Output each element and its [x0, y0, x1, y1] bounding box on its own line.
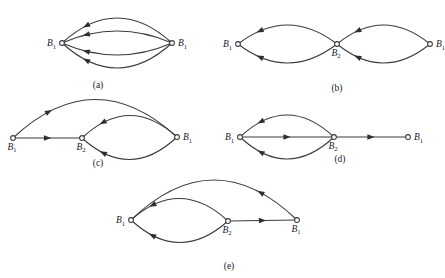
- edge-c-loop-bottom: [82, 137, 177, 160]
- arrowhead-c-loop-bottom: [100, 151, 108, 157]
- node-b-mid[interactable]: [335, 42, 340, 47]
- node-label-e-left: B1: [116, 215, 125, 226]
- node-label-subscript: 1: [420, 137, 423, 144]
- node-e-right[interactable]: [295, 218, 300, 223]
- node-d-right[interactable]: [406, 135, 411, 140]
- panel-caption-b: (b): [331, 83, 342, 94]
- node-d-left[interactable]: [238, 135, 243, 140]
- node-a-left[interactable]: [60, 41, 65, 46]
- node-b-right[interactable]: [428, 42, 433, 47]
- node-c-right[interactable]: [175, 135, 180, 140]
- node-label-c-right: B1: [183, 132, 192, 143]
- arrowhead-b-left-loop-top: [256, 27, 264, 32]
- node-label-c-mid: B2: [76, 142, 85, 153]
- edge-b-right-loop-bottom: [337, 44, 430, 63]
- arrowhead-b-right-loop-top: [354, 27, 362, 32]
- node-label-d-mid: B2: [328, 141, 337, 152]
- panel-caption-c: (c): [93, 158, 104, 169]
- node-label-subscript: 1: [53, 43, 56, 50]
- node-label-subscript: 2: [82, 146, 85, 153]
- edge-d-loop-top: [240, 115, 334, 137]
- edge-a-arc-3: [62, 43, 172, 55]
- graph-figure: B1B1B1B2B1B1B2B1B1B2B1B1B2B1 (a)(b)(c)(d…: [0, 0, 445, 278]
- edge-e-outer-arc: [131, 180, 297, 220]
- arrowhead-e-outer-arc: [257, 191, 265, 197]
- node-label-subscript: 1: [184, 43, 187, 50]
- arrowhead-e-straight: [259, 218, 266, 223]
- edge-b-left-loop-bottom: [238, 44, 337, 63]
- node-c-mid[interactable]: [80, 136, 85, 141]
- node-label-b-right: B1: [436, 39, 445, 50]
- node-a-right[interactable]: [170, 41, 175, 46]
- node-label-subscript: 1: [297, 228, 300, 235]
- panel-caption-a: (a): [93, 80, 104, 91]
- node-label-c-left: B1: [7, 142, 16, 153]
- panel-caption-d: (d): [334, 154, 345, 165]
- arrowhead-a-arc-1: [83, 22, 91, 28]
- arrowhead-e-loop-bottom: [149, 234, 157, 240]
- node-label-d-left: B1: [225, 132, 234, 143]
- node-c-left[interactable]: [11, 136, 16, 141]
- edge-c-outer-arc: [13, 99, 177, 138]
- node-label-subscript: 1: [231, 137, 234, 144]
- node-label-e-mid: B2: [222, 225, 231, 236]
- node-label-b-mid: B2: [331, 48, 340, 59]
- node-label-e-right: B1: [291, 224, 300, 235]
- node-label-subscript: 1: [13, 146, 16, 153]
- edges-layer: [13, 18, 430, 243]
- node-label-subscript: 1: [189, 137, 192, 144]
- node-label-subscript: 2: [334, 145, 337, 152]
- node-e-mid[interactable]: [226, 219, 231, 224]
- arrowhead-c-loop-top: [100, 119, 108, 125]
- captions-layer: (a)(b)(c)(d)(e): [93, 80, 346, 272]
- node-label-b-left: B1: [223, 39, 232, 50]
- panel-caption-e: (e): [224, 261, 235, 272]
- node-e-left[interactable]: [129, 218, 134, 223]
- node-label-d-right: B1: [414, 132, 423, 143]
- edge-a-arc-2: [62, 31, 172, 43]
- node-label-subscript: 2: [337, 52, 340, 59]
- edge-b-right-loop-top: [337, 25, 430, 44]
- arrowhead-a-arc-4: [83, 59, 91, 65]
- arrowhead-b-left-loop-bottom: [256, 56, 264, 61]
- node-label-a-left: B1: [47, 38, 56, 49]
- node-label-a-right: B1: [178, 38, 187, 49]
- arrowhead-d-straight-right: [367, 134, 374, 139]
- arrowhead-b-right-loop-bottom: [354, 56, 362, 61]
- arrowhead-a-arc-3: [83, 49, 91, 54]
- arrowhead-a-arc-2: [83, 31, 91, 36]
- arrowhead-d-straight-left: [283, 134, 290, 139]
- edge-e-loop-bottom: [131, 220, 228, 243]
- node-label-subscript: 2: [228, 229, 231, 236]
- edge-c-loop-top: [82, 115, 177, 138]
- node-d-mid[interactable]: [332, 135, 337, 140]
- edge-d-loop-bottom: [240, 137, 334, 159]
- node-b-left[interactable]: [236, 42, 241, 47]
- arrowhead-c-straight: [44, 135, 51, 140]
- node-label-subscript: 1: [122, 220, 125, 227]
- arrowhead-d-loop-bottom: [257, 150, 265, 156]
- edge-b-left-loop-top: [238, 25, 337, 44]
- node-label-subscript: 1: [229, 44, 232, 51]
- arrowhead-c-outer-arc: [44, 110, 52, 116]
- arrowhead-d-loop-top: [257, 118, 265, 124]
- edge-e-loop-top: [131, 198, 228, 221]
